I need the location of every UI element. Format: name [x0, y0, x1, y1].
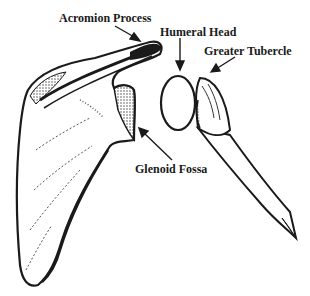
humeral-head-arrowhead-icon: [176, 61, 184, 70]
label-glenoid-fossa: Glenoid Fossa: [135, 163, 207, 175]
label-acromion-process: Acromion Process: [59, 12, 152, 24]
greater-tubercle-arrowhead-icon: [211, 64, 220, 72]
humerus: [161, 76, 296, 238]
shoulder-anatomy-diagram: Acromion Process Humeral Head Greater Tu…: [0, 0, 310, 296]
label-greater-tubercle: Greater Tubercle: [204, 45, 292, 57]
label-humeral-head: Humeral Head: [160, 26, 236, 38]
acromion-arrowhead-icon: [130, 33, 140, 41]
greater-tubercle-arrow: [216, 57, 235, 69]
glenoid-fossa-arrow: [143, 132, 172, 160]
